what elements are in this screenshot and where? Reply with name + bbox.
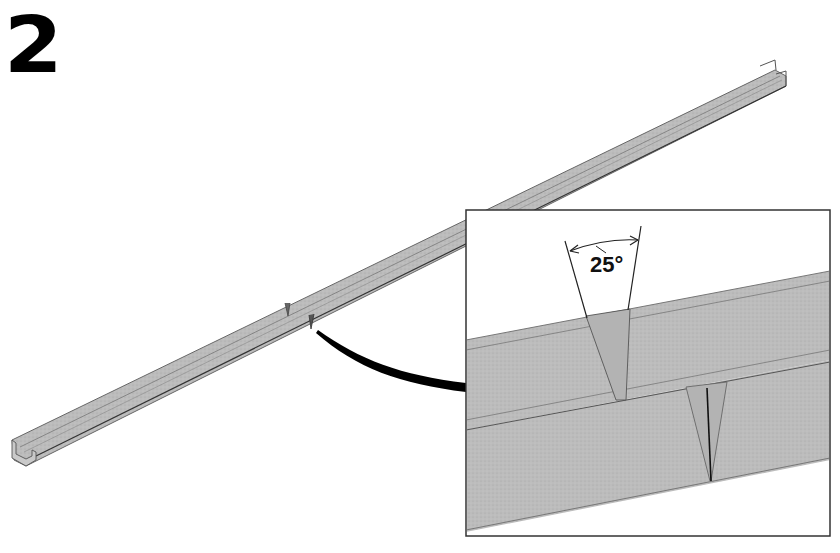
illustration bbox=[0, 0, 840, 553]
detail-view bbox=[466, 210, 830, 536]
callout-leader bbox=[316, 330, 466, 392]
angle-label: 25° bbox=[590, 252, 623, 278]
